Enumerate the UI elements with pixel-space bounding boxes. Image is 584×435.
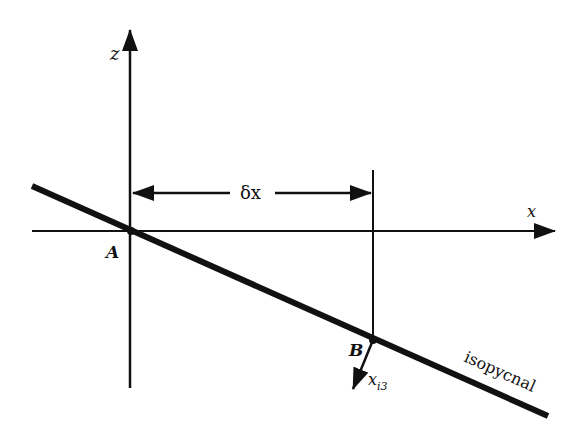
xi3-label: xi3 (368, 370, 388, 393)
point-b-label: B (348, 340, 363, 360)
isopycnal-diagram: z x A B δx xi3 isopycnal (0, 0, 584, 435)
isopycnal-line (32, 186, 548, 416)
point-a-label: A (104, 242, 119, 262)
x-axis-label: x (527, 202, 536, 221)
delta-x-label: δx (240, 182, 261, 203)
isopycnal-label: isopycnal (461, 347, 538, 395)
point-a (127, 227, 135, 235)
z-axis-label: z (109, 43, 120, 64)
